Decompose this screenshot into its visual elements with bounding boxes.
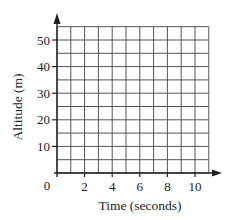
x-tick-label: 4: [109, 179, 116, 194]
axes: [54, 13, 223, 177]
y-tick-label: 40: [37, 59, 50, 74]
x-tick-label: 6: [137, 179, 144, 194]
x-tick-label: 10: [189, 179, 202, 194]
chart: 246810 1020304050 0 Time (seconds) Altit…: [0, 0, 230, 220]
x-tick-label: 2: [81, 179, 88, 194]
y-axis-arrow-icon: [54, 13, 61, 24]
y-tick-label: 20: [37, 112, 50, 127]
y-axis-title: Altitude (m): [10, 73, 25, 140]
x-axis-tick-labels: 246810: [81, 173, 201, 194]
grid-lines: [57, 27, 209, 173]
origin-label: 0: [44, 178, 51, 193]
y-tick-label: 30: [37, 86, 50, 101]
y-tick-label: 50: [37, 33, 50, 48]
y-axis-tick-labels: 1020304050: [37, 33, 57, 154]
y-tick-label: 10: [37, 139, 50, 154]
x-axis-title: Time (seconds): [98, 198, 181, 213]
x-tick-label: 8: [164, 179, 171, 194]
x-axis-arrow-icon: [212, 170, 222, 177]
